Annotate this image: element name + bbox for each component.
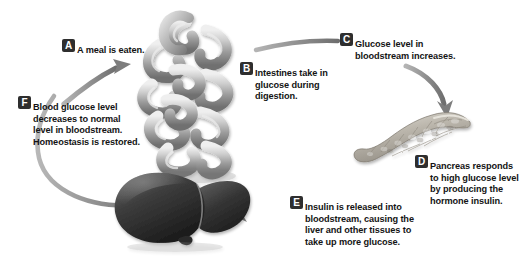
callout-a-text: A meal is eaten. (77, 45, 145, 55)
callout-e-line-3: liver and other tissues to (290, 225, 425, 236)
badge-d: D (415, 155, 428, 168)
callout-f-line-2: decreases to normal (18, 114, 158, 125)
callout-e[interactable]: EInsulin is released into bloodstream, c… (290, 196, 425, 248)
callout-e-line-4: take up more glucose. (290, 237, 425, 248)
callout-b-line-1: Intestines take in (255, 68, 328, 78)
callout-d-line-1: Pancreas responds (430, 161, 513, 171)
callout-d-line-4: hormone insulin. (415, 196, 530, 207)
callout-f[interactable]: FBlood glucose level decreases to normal… (18, 96, 158, 148)
glucose-homeostasis-diagram: AA meal is eaten. BIntestines take in gl… (0, 0, 531, 268)
badge-b: B (240, 62, 253, 75)
callout-b-line-2: glucose during (240, 80, 340, 91)
callout-d-line-2: to high glucose level (415, 173, 530, 184)
line-intestines-to-glucose-level (256, 41, 338, 50)
callout-c-line-2: bloodstream increases. (340, 51, 460, 62)
callout-c-line-1: Glucose level in (355, 39, 423, 49)
callout-d-line-3: by producing the (415, 184, 530, 195)
callout-a[interactable]: AA meal is eaten. (62, 39, 192, 57)
callout-c[interactable]: CGlucose level in bloodstream increases. (340, 33, 460, 62)
callout-e-line-1: Insulin is released into (305, 202, 402, 212)
badge-f: F (18, 96, 31, 109)
callout-f-line-3: level in bloodstream. (18, 125, 158, 136)
badge-e: E (290, 196, 303, 209)
liver-illustration-target[interactable] (110, 168, 256, 250)
badge-a: A (62, 39, 75, 52)
callout-e-line-2: bloodstream, causing the (290, 214, 425, 225)
badge-c: C (340, 33, 353, 46)
callout-f-line-4: Homeostasis is restored. (18, 137, 158, 148)
callout-b-line-3: digestion. (240, 91, 340, 102)
callout-d[interactable]: DPancreas responds to high glucose level… (415, 155, 530, 207)
callout-b[interactable]: BIntestines take in glucose during diges… (240, 62, 340, 103)
callout-f-line-1: Blood glucose level (33, 102, 117, 112)
